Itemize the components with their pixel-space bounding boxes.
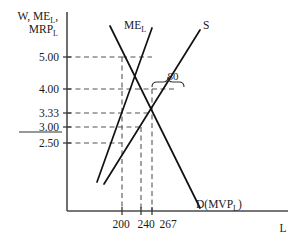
ytick-label-500: 5.00 [39,51,59,63]
ytick-label-400: 4.00 [39,83,59,95]
y-tick-labels-group: 5.00 4.00 3.33 3.00 2.50 [39,51,59,149]
axes-group [67,12,288,211]
monopsony-labor-market-chart: W, MEL, MRPL 5.00 4.00 3.33 3.00 2.50 20… [0,0,306,248]
curve-label-d-open: D(MVP [196,198,233,211]
xtick-label-240: 240 [137,218,155,230]
ytick-label-300: 3.00 [39,121,59,133]
curves-group [97,26,200,208]
curve-marginal-expenditure [97,28,152,182]
curve-label-supply: S [203,19,209,31]
gap-annotation-label: 80 [168,70,180,82]
curve-label-marginal-expenditure: MEL [124,19,146,34]
curve-labor-demand [110,26,200,208]
curve-label-d-close: ) [238,198,242,211]
ytick-label-333: 3.33 [39,107,59,119]
svg-text:MRPL: MRPL [29,23,58,38]
y-axis-title: W, MEL, MRPL [17,10,58,38]
chart-svg: W, MEL, MRPL 5.00 4.00 3.33 3.00 2.50 20… [0,0,306,248]
y-axis-title-part1: W, ME [17,10,50,23]
x-axis-title: L [279,222,286,234]
y-axis-title-part2: MRP [29,23,53,35]
curve-label-me-text: ME [124,19,141,31]
y-axis-title-sub2: L [53,29,58,38]
horizontal-guides-group [67,57,174,143]
curve-label-me-sub: L [141,25,146,34]
xtick-label-200: 200 [112,218,130,230]
ytick-label-250: 2.50 [39,137,59,149]
y-axis-title-comma: , [55,10,58,23]
xtick-label-267: 267 [159,218,177,230]
x-tick-labels-group: 200 240 267 [112,218,177,230]
